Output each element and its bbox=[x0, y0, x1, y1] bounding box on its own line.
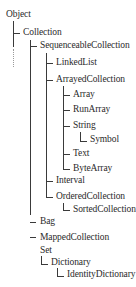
string-connector bbox=[63, 126, 70, 127]
object-more-children-dotted-line bbox=[13, 49, 14, 67]
collection-children-line bbox=[30, 40, 31, 215]
node-object: Object bbox=[6, 9, 31, 20]
string-children-line bbox=[80, 132, 81, 141]
bag-connector bbox=[30, 222, 36, 223]
node-sorted-collection: SortedCollection bbox=[73, 204, 136, 215]
sorted-connector bbox=[63, 210, 70, 211]
node-dictionary: Dictionary bbox=[51, 257, 91, 268]
arrayed-connector bbox=[46, 80, 53, 81]
interval-connector bbox=[46, 181, 53, 182]
node-text: Text bbox=[73, 148, 89, 159]
node-linkedlist: LinkedList bbox=[56, 57, 97, 68]
node-sequenceable-collection: SequenceableCollection bbox=[40, 40, 130, 51]
linkedlist-connector bbox=[46, 63, 53, 64]
array-connector bbox=[63, 95, 70, 96]
set-children-line bbox=[41, 256, 42, 264]
arrayed-children-line bbox=[63, 86, 64, 170]
node-array: Array bbox=[73, 89, 95, 100]
dictionary-connector bbox=[41, 264, 48, 265]
dictionary-children-line bbox=[57, 268, 58, 276]
node-ordered-collection: OrderedCollection bbox=[56, 191, 125, 202]
node-collection: Collection bbox=[23, 27, 62, 38]
bytearray-connector bbox=[63, 169, 70, 170]
ordered-children-line bbox=[63, 203, 64, 210]
node-symbol: Symbol bbox=[90, 134, 119, 145]
node-mapped-collection: MappedCollection bbox=[40, 232, 109, 243]
node-runarray: RunArray bbox=[73, 104, 110, 115]
sequenceable-connector bbox=[30, 46, 37, 47]
node-bytearray: ByteArray bbox=[73, 163, 112, 174]
sequenceable-children-line bbox=[46, 53, 47, 197]
node-interval: Interval bbox=[56, 175, 85, 186]
object-children-line bbox=[13, 21, 14, 47]
runarray-connector bbox=[63, 110, 70, 111]
node-set: Set bbox=[40, 245, 52, 256]
node-arrayed-collection: ArrayedCollection bbox=[56, 74, 125, 85]
ordered-connector bbox=[46, 197, 53, 198]
identitydictionary-connector bbox=[57, 276, 64, 277]
symbol-connector bbox=[80, 141, 87, 142]
node-string: String bbox=[73, 120, 96, 131]
node-identity-dictionary: IdentityDictionary bbox=[67, 269, 135, 280]
collection-connector bbox=[13, 33, 20, 34]
node-bag: Bag bbox=[40, 216, 55, 227]
text-connector bbox=[63, 154, 70, 155]
mapped-connector bbox=[30, 237, 36, 238]
